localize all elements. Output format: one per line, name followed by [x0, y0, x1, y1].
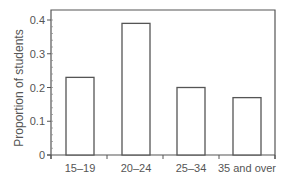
y-axis-label: Proportion of students: [12, 29, 26, 146]
bar-25-34: [177, 88, 205, 156]
y-tick-label: 0.3: [30, 48, 45, 60]
y-tick-label: 0.4: [30, 14, 45, 26]
bar-chart: 00.10.20.30.4 15–1920–2425–3435 and over…: [0, 0, 291, 185]
bar-35-and-over: [233, 98, 261, 155]
y-tick-label: 0: [39, 149, 45, 161]
x-tick-label: 20–24: [121, 162, 152, 174]
y-tick-label: 0.2: [30, 82, 45, 94]
y-tick-label: 0.1: [30, 115, 45, 127]
x-tick-label: 35 and over: [218, 162, 276, 174]
x-tick-label: 15–19: [65, 162, 96, 174]
bar-20-24: [122, 23, 150, 155]
x-tick-label: 25–34: [176, 162, 207, 174]
bars: [66, 23, 261, 155]
bar-15-19: [66, 77, 94, 155]
y-axis: 00.10.20.30.4: [30, 14, 53, 161]
x-axis: 15–1920–2425–3435 and over: [51, 155, 276, 174]
